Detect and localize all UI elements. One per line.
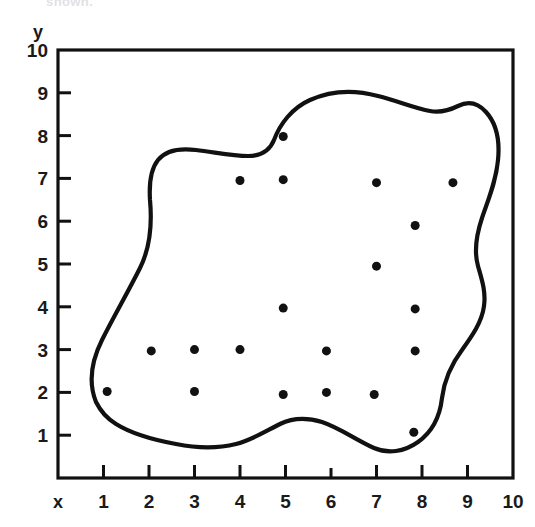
y-tick-label-3: 3 (37, 340, 48, 361)
plot-border (58, 50, 513, 478)
scatter-plot-svg: 10 9 8 7 6 5 4 3 2 1 1 2 3 4 5 6 7 8 9 1… (0, 0, 535, 527)
x-tick-label-3: 3 (189, 491, 200, 512)
data-point (279, 390, 288, 399)
x-tick-label-6: 6 (326, 491, 337, 512)
data-point (236, 176, 245, 185)
enclosing-region-curve (92, 92, 499, 451)
data-point (322, 346, 331, 355)
y-axis-ticks (58, 93, 71, 435)
y-tick-label-4: 4 (37, 297, 48, 318)
data-point (279, 304, 288, 313)
data-point (372, 262, 381, 271)
x-tick-label-10: 10 (502, 491, 523, 512)
data-point (370, 390, 379, 399)
data-point (372, 178, 381, 187)
y-tick-label-10: 10 (27, 40, 48, 61)
data-point (279, 175, 288, 184)
y-tick-label-7: 7 (37, 168, 48, 189)
data-point (411, 346, 420, 355)
y-axis-name: y (33, 22, 43, 42)
figure-root: shown. (0, 0, 535, 527)
x-tick-label-8: 8 (417, 491, 428, 512)
y-tick-label-2: 2 (37, 382, 48, 403)
data-point (190, 345, 199, 354)
x-tick-label-4: 4 (235, 491, 246, 512)
x-tick-labels: 1 2 3 4 5 6 7 8 9 10 (98, 491, 523, 512)
y-tick-label-1: 1 (37, 425, 48, 446)
x-axis-ticks (104, 465, 468, 478)
data-point (411, 304, 420, 313)
y-tick-label-8: 8 (37, 126, 48, 147)
x-tick-label-9: 9 (462, 491, 473, 512)
x-tick-label-5: 5 (280, 491, 291, 512)
data-point (279, 132, 288, 141)
data-point (448, 178, 457, 187)
x-axis-name: x (53, 492, 63, 512)
data-point (236, 345, 245, 354)
y-tick-label-6: 6 (37, 211, 48, 232)
y-tick-labels: 10 9 8 7 6 5 4 3 2 1 (27, 40, 49, 446)
data-point (103, 387, 112, 396)
data-points (103, 132, 458, 437)
data-point (147, 346, 156, 355)
data-point (322, 388, 331, 397)
y-tick-label-5: 5 (37, 254, 48, 275)
y-tick-label-9: 9 (37, 83, 48, 104)
data-point (190, 387, 199, 396)
plot-frame (58, 50, 513, 478)
x-tick-label-1: 1 (98, 491, 109, 512)
data-point (409, 428, 418, 437)
x-tick-label-7: 7 (371, 491, 382, 512)
x-tick-label-2: 2 (144, 491, 155, 512)
data-point (411, 221, 420, 230)
